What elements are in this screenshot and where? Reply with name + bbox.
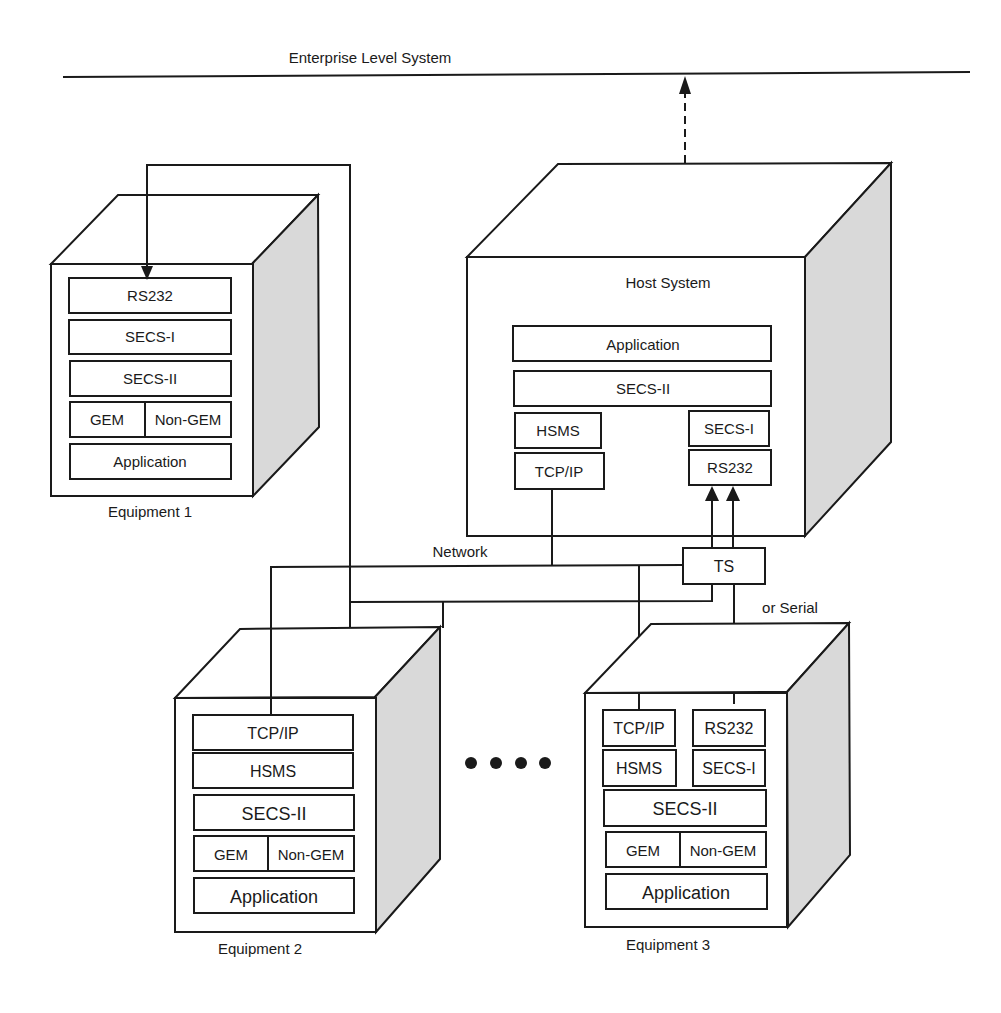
layer-rs232: RS232	[705, 720, 754, 737]
equipment-2-label: Equipment 2	[218, 940, 302, 957]
network-label: Network	[432, 543, 488, 560]
layer-secs-ii: SECS-II	[123, 370, 177, 387]
equipment-2: TCP/IP HSMS SECS-II GEM Non-GEM Applicat…	[175, 627, 440, 957]
equipment-1-stack: RS232 SECS-I SECS-II GEM Non-GEM Applica…	[69, 278, 231, 479]
layer-rs232: RS232	[127, 287, 173, 304]
layer-gem: GEM	[626, 842, 660, 859]
layer-gem: GEM	[90, 411, 124, 428]
enterprise-level-bus: Enterprise Level System	[63, 49, 970, 77]
host-layer-tcpip: TCP/IP	[535, 463, 583, 480]
layer-secs-ii: SECS-II	[652, 799, 717, 819]
layer-application: Application	[642, 883, 730, 903]
layer-tcpip: TCP/IP	[247, 725, 299, 742]
semi-equipment-communication-diagram: Enterprise Level System RS232 SECS-I SEC…	[0, 0, 1001, 1013]
layer-hsms: HSMS	[616, 760, 662, 777]
host-layer-hsms: HSMS	[536, 422, 579, 439]
enterprise-label: Enterprise Level System	[289, 49, 452, 66]
more-equipment-ellipsis	[465, 757, 551, 769]
layer-secs-i: SECS-I	[125, 328, 175, 345]
layer-non-gem: Non-GEM	[690, 842, 757, 859]
layer-application: Application	[230, 887, 318, 907]
equipment-3: TCP/IP RS232 HSMS SECS-I SECS-II GEM Non…	[585, 623, 850, 953]
host-title: Host System	[625, 274, 710, 291]
layer-non-gem: Non-GEM	[155, 411, 222, 428]
layer-application: Application	[113, 453, 186, 470]
layer-tcpip: TCP/IP	[613, 720, 665, 737]
equipment-3-label: Equipment 3	[626, 936, 710, 953]
layer-non-gem: Non-GEM	[278, 846, 345, 863]
host-system: Host System Application SECS-II HSMS TCP…	[467, 163, 891, 536]
host-layer-application: Application	[606, 336, 679, 353]
host-layer-secs-i: SECS-I	[704, 420, 754, 437]
host-layer-secs-ii: SECS-II	[616, 380, 670, 397]
equipment-1-label: Equipment 1	[108, 503, 192, 520]
layer-hsms: HSMS	[250, 763, 296, 780]
equipment-1: RS232 SECS-I SECS-II GEM Non-GEM Applica…	[51, 195, 319, 520]
layer-secs-ii: SECS-II	[241, 804, 306, 824]
host-layer-rs232: RS232	[707, 459, 753, 476]
ts-label: TS	[714, 558, 734, 575]
layer-gem: GEM	[214, 846, 248, 863]
serial-label: or Serial	[762, 599, 818, 616]
layer-secs-i: SECS-I	[702, 760, 755, 777]
arrow-up-icon	[679, 76, 691, 94]
